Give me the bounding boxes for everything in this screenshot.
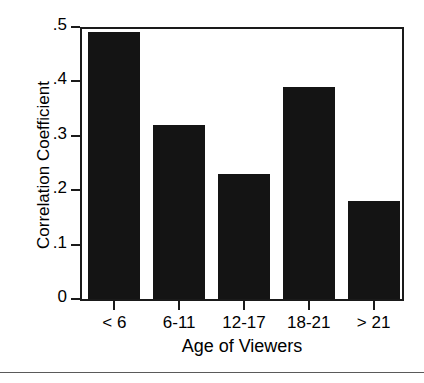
- frame-border-top: [80, 27, 404, 29]
- x-axis-tick-label: > 21: [341, 313, 406, 333]
- y-axis-tick: .1: [71, 244, 80, 246]
- y-axis-tick-label: .5: [53, 15, 67, 35]
- y-axis-tick: 0: [71, 298, 80, 300]
- x-axis-tick-label: 18-21: [276, 313, 341, 333]
- y-axis-tick-label: .4: [53, 69, 67, 89]
- axis-line-bottom: [80, 299, 404, 301]
- y-axis-tick: .4: [71, 80, 80, 82]
- bar: [348, 201, 400, 299]
- x-axis-tick: [308, 301, 310, 310]
- bar: [153, 125, 205, 299]
- x-axis-title: Age of Viewers: [80, 336, 404, 357]
- y-axis-tick-label: .1: [53, 233, 67, 253]
- y-axis-tick-label: 0: [58, 287, 67, 307]
- plot-area: 0.1.2.3.4.5 < 66-1112-1718-21> 21: [80, 27, 404, 301]
- bar: [88, 32, 140, 299]
- y-axis-tick-label: .3: [53, 124, 67, 144]
- y-axis-tick: .3: [71, 135, 80, 137]
- bar: [283, 87, 335, 299]
- bar: [218, 174, 270, 299]
- bar-chart-figure: Correlation Coefficient 0.1.2.3.4.5 < 66…: [0, 0, 424, 383]
- y-axis-title: Correlation Coefficient: [34, 25, 54, 305]
- y-axis-tick: .5: [71, 26, 80, 28]
- x-axis-tick-label: 6-11: [147, 313, 212, 333]
- x-axis-tick: [178, 301, 180, 310]
- y-axis-tick-label: .2: [53, 178, 67, 198]
- frame-border-right: [402, 27, 404, 301]
- y-axis-tick: .2: [71, 189, 80, 191]
- x-axis-tick: [373, 301, 375, 310]
- x-axis-tick: [113, 301, 115, 310]
- bottom-divider: [0, 372, 424, 373]
- axis-line-left: [80, 27, 82, 301]
- x-axis-tick: [243, 301, 245, 310]
- x-axis-tick-label: 12-17: [212, 313, 277, 333]
- x-axis-tick-label: < 6: [82, 313, 147, 333]
